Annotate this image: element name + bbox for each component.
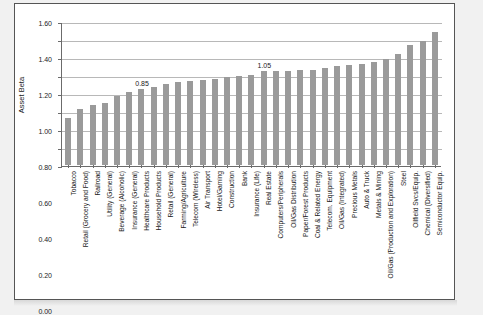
bar[interactable] <box>420 41 426 165</box>
bar[interactable] <box>285 71 291 166</box>
x-axis-category-label: Railroad <box>95 171 102 196</box>
x-axis-category-label: Semiconductor Equip. <box>437 171 444 236</box>
bar[interactable] <box>297 70 303 165</box>
y-axis-tick: 0.60 <box>58 113 62 114</box>
bar[interactable] <box>371 62 377 165</box>
bar-slot <box>295 21 306 165</box>
y-axis-tick: 1.00 <box>58 77 62 78</box>
bar-slot <box>381 21 392 165</box>
bar-slot <box>393 21 404 165</box>
bar-slot <box>246 21 257 165</box>
bar[interactable] <box>126 92 132 165</box>
bar[interactable] <box>334 66 340 165</box>
y-axis-tick-label: 0.40 <box>38 236 52 243</box>
bar[interactable] <box>212 79 218 165</box>
bar[interactable] <box>175 82 181 165</box>
x-axis-tick <box>154 165 155 168</box>
bar[interactable] <box>395 54 401 165</box>
x-axis-tick <box>190 165 191 168</box>
x-axis-tick <box>264 165 265 168</box>
bar-slot <box>124 21 135 165</box>
x-axis-tick <box>251 165 252 168</box>
x-axis-tick <box>435 165 436 168</box>
bar[interactable] <box>90 105 96 165</box>
x-axis-category-label: Telecom. Equipment <box>327 171 334 231</box>
x-axis-category-labels: TobaccoRetail (Grocery and Food)Railroad… <box>62 171 442 296</box>
x-axis-category-label: Oil/Gas (Production and Exploration) <box>388 171 395 278</box>
bar[interactable] <box>224 77 230 165</box>
bar-slot <box>283 21 294 165</box>
bar[interactable] <box>310 70 316 165</box>
bar-slot <box>271 21 282 165</box>
x-axis-tick <box>398 165 399 168</box>
x-axis-tick <box>288 165 289 168</box>
bar[interactable] <box>200 80 206 165</box>
y-axis-tick: 1.20 <box>58 59 62 60</box>
x-axis-tick <box>178 165 179 168</box>
bar-slot <box>418 21 429 165</box>
x-axis-category-label: Insurance (Life) <box>254 171 261 217</box>
x-axis-tick <box>410 165 411 168</box>
bar[interactable] <box>102 103 108 165</box>
x-axis-tick <box>227 165 228 168</box>
x-axis-tick <box>423 165 424 168</box>
x-axis-tick <box>349 165 350 168</box>
bar[interactable] <box>138 89 144 166</box>
bar-slot: 0.85 <box>136 21 147 165</box>
bar-slot <box>161 21 172 165</box>
x-axis-tick <box>276 165 277 168</box>
x-axis-tick <box>337 165 338 168</box>
x-axis-tick <box>80 165 81 168</box>
bar-slot <box>112 21 123 165</box>
bar[interactable] <box>383 59 389 165</box>
bar[interactable] <box>273 71 279 166</box>
x-axis-tick <box>166 165 167 168</box>
y-axis-tick: 0.00 <box>58 167 62 168</box>
x-axis-category-label: Computers/Peripherals <box>278 171 285 238</box>
x-axis-tick <box>141 165 142 168</box>
y-axis-tick-label: 1.40 <box>38 56 52 63</box>
bar-slot <box>185 21 196 165</box>
bar[interactable] <box>114 96 120 165</box>
bar-slot <box>320 21 331 165</box>
bar[interactable] <box>346 65 352 165</box>
bar-chart: Asset Beta 0.000.200.400.600.801.001.201… <box>15 4 456 301</box>
x-axis-category-label: Steel <box>401 171 408 186</box>
bar[interactable] <box>65 118 71 165</box>
bar-slot <box>75 21 86 165</box>
y-axis-tick-label: 1.60 <box>38 20 52 27</box>
bar-slot <box>100 21 111 165</box>
bar[interactable] <box>151 87 157 165</box>
bar[interactable] <box>432 32 438 165</box>
bar[interactable] <box>248 75 254 165</box>
x-axis-category-label: Construction <box>229 171 236 208</box>
x-axis-category-label: Bank <box>242 171 249 186</box>
bar-slot <box>356 21 367 165</box>
bar-slot <box>173 21 184 165</box>
y-axis-tick: 1.40 <box>58 41 62 42</box>
x-axis-category-label: Retail (General) <box>168 171 175 218</box>
bar[interactable] <box>236 76 242 165</box>
bar[interactable] <box>359 64 365 165</box>
bar[interactable] <box>261 71 267 166</box>
bar-slot <box>63 21 74 165</box>
bar[interactable] <box>407 45 413 165</box>
bar[interactable] <box>187 81 193 165</box>
bar-value-label: 0.85 <box>135 80 149 87</box>
x-axis-category-label: Auto & Truck <box>364 171 371 209</box>
bar[interactable] <box>77 109 83 165</box>
y-axis-tick: 0.20 <box>58 149 62 150</box>
x-axis-tick <box>129 165 130 168</box>
bar-slot <box>308 21 319 165</box>
x-axis-category-label: Retail (Grocery and Food) <box>83 171 90 247</box>
bar[interactable] <box>322 68 328 165</box>
x-axis-tick <box>215 165 216 168</box>
x-axis-category-label: Oil/Gas Distribution <box>291 171 298 228</box>
x-axis-category-label: Oilfield Svcs/Equip. <box>413 171 420 228</box>
bar[interactable] <box>163 84 169 165</box>
x-axis-category-label: Healthcare Products <box>144 171 151 231</box>
bar-slot <box>197 21 208 165</box>
bar-slot <box>344 21 355 165</box>
x-axis-category-label: Tobacco <box>71 171 78 196</box>
y-axis-tick: 0.80 <box>58 95 62 96</box>
